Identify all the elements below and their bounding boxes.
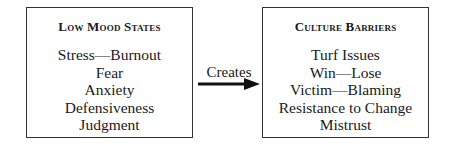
- list-item: Judgment: [27, 116, 192, 134]
- list-item: Stress—Burnout: [27, 46, 192, 64]
- low-mood-states-list: Stress—Burnout Fear Anxiety Defensivenes…: [27, 46, 192, 134]
- low-mood-states-title: Low Mood States: [27, 19, 192, 35]
- culture-barriers-title: Culture Barriers: [263, 19, 428, 35]
- list-item: Defensiveness: [27, 99, 192, 117]
- list-item: Victim—Blaming: [263, 81, 428, 99]
- list-item: Win—Lose: [263, 64, 428, 82]
- list-item: Anxiety: [27, 81, 192, 99]
- culture-barriers-box: Culture Barriers Turf Issues Win—Lose Vi…: [262, 7, 429, 138]
- list-item: Resistance to Change: [263, 99, 428, 117]
- culture-barriers-list: Turf Issues Win—Lose Victim—Blaming Resi…: [263, 46, 428, 134]
- list-item: Fear: [27, 64, 192, 82]
- right-arrow-icon: [198, 78, 260, 90]
- list-item: Mistrust: [263, 116, 428, 134]
- low-mood-states-box: Low Mood States Stress—Burnout Fear Anxi…: [26, 7, 193, 138]
- list-item: Turf Issues: [263, 46, 428, 64]
